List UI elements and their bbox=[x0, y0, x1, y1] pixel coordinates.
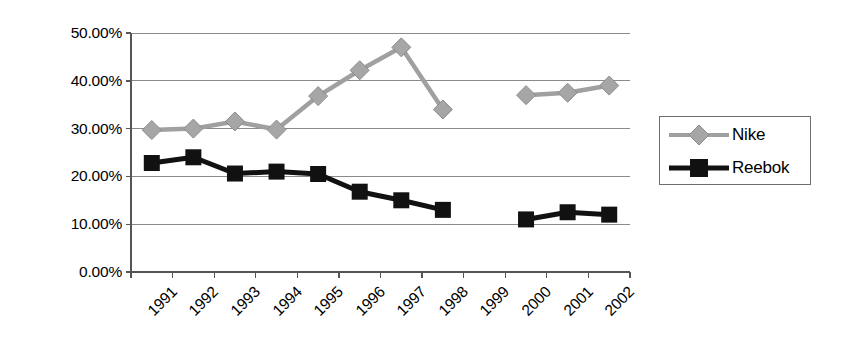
x-axis-tick-label: 1998 bbox=[428, 283, 472, 327]
x-axis-tick-label: 2002 bbox=[594, 283, 638, 327]
legend-marker-square-icon bbox=[668, 156, 730, 180]
legend-marker-diamond-icon bbox=[668, 123, 730, 147]
x-axis-tick-label: 1994 bbox=[261, 283, 305, 327]
x-axis-tick-label: 2000 bbox=[511, 283, 555, 327]
x-axis-tick-label: 1993 bbox=[220, 283, 264, 327]
legend-entry-reebok: Reebok bbox=[660, 151, 812, 185]
chart-legend: Nike Reebok bbox=[659, 116, 811, 185]
x-axis-tick-label: 1996 bbox=[345, 283, 389, 327]
legend-label-nike: Nike bbox=[732, 125, 765, 145]
x-axis-tick-label: 1999 bbox=[469, 283, 513, 327]
line-chart: 0.00%10.00%20.00%30.00%40.00%50.00% 1991… bbox=[0, 0, 843, 359]
x-axis-tick-label: 1991 bbox=[137, 283, 181, 327]
x-axis-tick-label: 1997 bbox=[386, 283, 430, 327]
x-axis-tick-label: 1995 bbox=[303, 283, 347, 327]
legend-entry-nike: Nike bbox=[660, 118, 812, 152]
x-axis-tick-label: 2001 bbox=[553, 283, 597, 327]
x-axis-tick-label: 1992 bbox=[178, 283, 222, 327]
legend-label-reebok: Reebok bbox=[732, 158, 789, 178]
